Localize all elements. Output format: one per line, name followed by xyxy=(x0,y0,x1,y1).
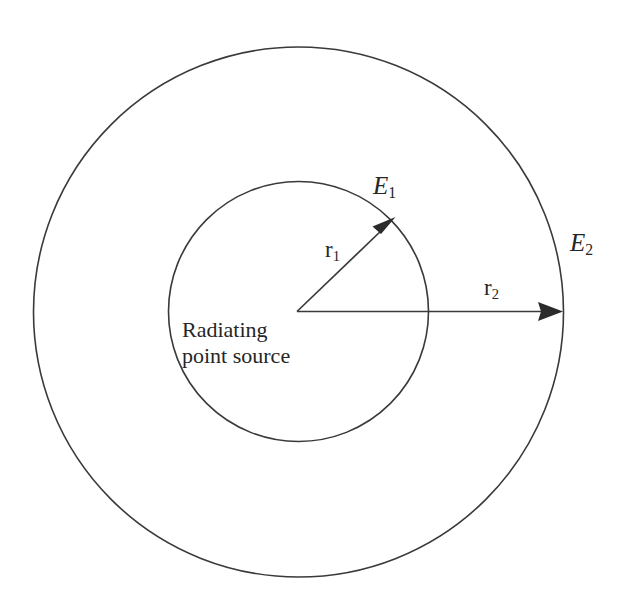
source-caption: Radiating point source xyxy=(182,317,290,369)
field-label-e2: E2 xyxy=(570,228,593,260)
field-label-e2-subscript: 2 xyxy=(585,241,593,258)
field-label-e1-symbol: E xyxy=(373,172,388,199)
radius-label-r2: r2 xyxy=(484,274,499,303)
radius-label-r1-subscript: 1 xyxy=(333,248,340,264)
field-label-e1-subscript: 1 xyxy=(388,184,396,201)
radius-label-r1-symbol: r xyxy=(325,237,333,262)
radius-arrow-r2 xyxy=(297,302,563,321)
radius-label-r1: r1 xyxy=(325,236,340,265)
radius-arrow-r1-head xyxy=(373,217,396,241)
radius-label-r2-subscript: 2 xyxy=(492,286,499,302)
radius-arrow-r1 xyxy=(297,217,396,312)
field-label-e1: E1 xyxy=(373,171,396,203)
radius-label-r2-symbol: r xyxy=(484,275,492,300)
diagram-canvas xyxy=(0,0,617,603)
radius-arrow-r1-shaft xyxy=(297,229,384,312)
field-label-e2-symbol: E xyxy=(570,229,585,256)
radius-arrow-r2-head xyxy=(538,302,563,321)
radiating-point-source-diagram: E1 E2 r1 r2 Radiating point source xyxy=(0,0,617,603)
